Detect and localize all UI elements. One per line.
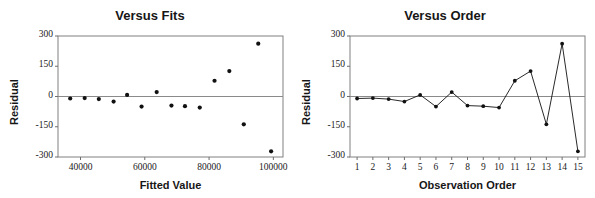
panel-versus-fits: Versus Fits Residual Fitted Value -300-1… <box>0 0 300 198</box>
x-tick-label: 40000 <box>56 162 106 172</box>
y-tick-label: 300 <box>16 29 53 39</box>
x-tick-label: 15 <box>553 162 595 172</box>
x-tick-label: 60000 <box>120 162 170 172</box>
y-tick-label: 0 <box>16 90 53 100</box>
y-tick-label: 150 <box>16 59 53 69</box>
y-tick-label: -150 <box>16 120 53 130</box>
x-tick-label: 100000 <box>248 162 298 172</box>
y-tick-label: 300 <box>308 29 345 39</box>
x-tick-label: 80000 <box>184 162 234 172</box>
y-tick-label: -150 <box>308 120 345 130</box>
panel-versus-order: Versus Order Residual Observation Order … <box>295 0 595 198</box>
residual-plots-figure: Versus Fits Residual Fitted Value -300-1… <box>0 0 595 198</box>
y-tick-label: 0 <box>308 90 345 100</box>
y-tick-label: -300 <box>308 150 345 160</box>
y-tick-label: -300 <box>16 150 53 160</box>
y-tick-label: 150 <box>308 59 345 69</box>
